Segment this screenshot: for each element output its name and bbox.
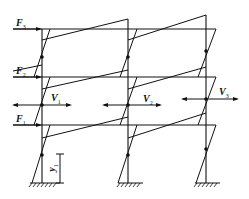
inflection-point <box>40 55 44 59</box>
label-v3-main: V <box>219 86 226 97</box>
label-v2: V2 <box>143 94 153 106</box>
label-v1: V1 <box>51 93 61 105</box>
inflection-point <box>204 49 208 53</box>
beam-moment-1a <box>42 117 128 138</box>
label-y1-sub: 1 <box>53 164 59 167</box>
frame-diagram <box>0 0 249 199</box>
label-f2-sub: 2 <box>23 72 26 78</box>
col3-moment-story3 <box>198 29 216 77</box>
inflection-point <box>126 55 130 59</box>
label-y1: y1 <box>47 164 59 171</box>
fixed-support-2 <box>117 183 143 187</box>
label-f3-sub: 3 <box>23 24 26 30</box>
label-f2-main: F <box>16 65 23 76</box>
arrowhead-icon <box>36 75 42 79</box>
label-v3: V3 <box>219 87 229 99</box>
label-f1: F1 <box>16 114 26 126</box>
label-v2-main: V <box>143 93 150 104</box>
label-v1-main: V <box>51 92 58 103</box>
beam-moment-2a <box>42 70 128 89</box>
label-y1-main: y <box>46 167 57 171</box>
arrowhead-right-icon <box>66 103 72 107</box>
label-f1-sub: 1 <box>23 120 26 126</box>
label-f3-main: F <box>16 17 23 28</box>
beam-moment-2b <box>128 67 206 89</box>
label-f3: F3 <box>16 18 26 30</box>
arrowhead-icon <box>36 123 42 127</box>
arrowhead-icon <box>36 27 42 31</box>
arrowhead-left-icon <box>181 97 187 101</box>
beam-moment-3b <box>128 15 206 40</box>
arrowhead-left-icon <box>102 103 108 107</box>
label-f1-main: F <box>16 113 23 124</box>
label-v1-sub: 1 <box>58 99 61 105</box>
arrowhead-right-icon <box>233 97 239 101</box>
label-v2-sub: 2 <box>150 100 153 106</box>
label-f2: F2 <box>16 66 26 78</box>
inflection-point <box>126 153 130 157</box>
arrowhead-right-icon <box>156 103 162 107</box>
inflection-point <box>204 147 208 151</box>
arrowhead-left-icon <box>12 103 18 107</box>
fixed-support-3 <box>194 183 220 187</box>
beams <box>13 29 216 125</box>
supports <box>29 183 220 187</box>
inflection-point <box>40 153 44 157</box>
label-v3-sub: 3 <box>226 93 229 99</box>
col3-moment-story2 <box>198 77 216 125</box>
fixed-support-1 <box>29 183 60 187</box>
